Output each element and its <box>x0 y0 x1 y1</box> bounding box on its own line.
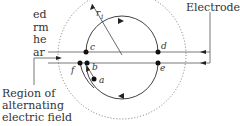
outer-dotted-orbit <box>58 0 186 119</box>
orbit-arrow-icon <box>118 93 124 99</box>
region-arrow-icon <box>56 56 62 60</box>
point-b <box>85 61 90 66</box>
label-d: d <box>161 41 167 51</box>
point-c <box>84 50 89 55</box>
orbit-arrow-icon <box>118 18 124 24</box>
label-a: a <box>99 75 104 85</box>
region-pointer <box>34 58 60 85</box>
label-f: f <box>71 65 74 75</box>
point-a <box>92 77 97 82</box>
electrode-arrow-icon <box>200 50 206 54</box>
region-label-line: electric field <box>2 112 72 124</box>
point-f <box>78 61 83 66</box>
electrode-arrow-icon <box>200 61 206 65</box>
label-r1: r1 <box>96 8 104 20</box>
label-c: c <box>90 42 95 52</box>
electrodes-label: Electrodes <box>186 2 240 14</box>
radius-arrow-icon <box>90 4 95 10</box>
point-d <box>156 50 161 55</box>
label-b: b <box>92 62 98 72</box>
label-e: e <box>160 63 165 73</box>
